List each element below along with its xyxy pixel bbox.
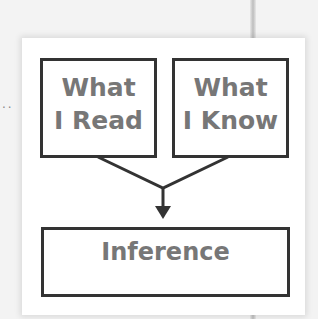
diagram-card: What I Read What I Know Inference [22, 38, 305, 315]
inference-label: Inference [44, 230, 287, 269]
page-edge-shadow-top [250, 0, 256, 40]
inference-box: Inference [41, 227, 290, 297]
margin-dots: ·· [2, 101, 14, 115]
